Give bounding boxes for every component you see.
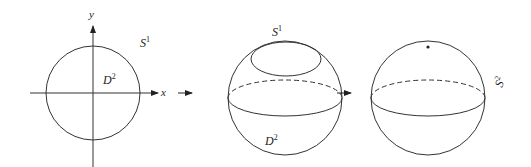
equator-front	[228, 98, 342, 116]
sphere-label: S2	[491, 74, 509, 89]
disk-label: D2	[264, 133, 278, 148]
panel-sphere: S2	[371, 41, 508, 155]
panel-disk: y x S1 D2	[30, 8, 166, 167]
panel-disk-on-sphere: S1 D2	[228, 24, 342, 155]
y-axis-label: y	[88, 8, 94, 20]
boundary-circle	[251, 42, 321, 76]
boundary-label: S1	[272, 24, 282, 39]
sphere-outline	[228, 41, 342, 155]
disk-label: D2	[102, 72, 116, 87]
circle-label: S1	[140, 35, 150, 50]
equator-back	[371, 80, 485, 98]
equator-back	[228, 80, 342, 98]
sphere-outline	[371, 41, 485, 155]
marked-point	[426, 45, 429, 48]
x-axis-label: x	[160, 86, 166, 98]
disk-to-sphere-diagram: y x S1 D2 S1 D2 S2	[0, 0, 531, 167]
equator-front	[371, 98, 485, 116]
